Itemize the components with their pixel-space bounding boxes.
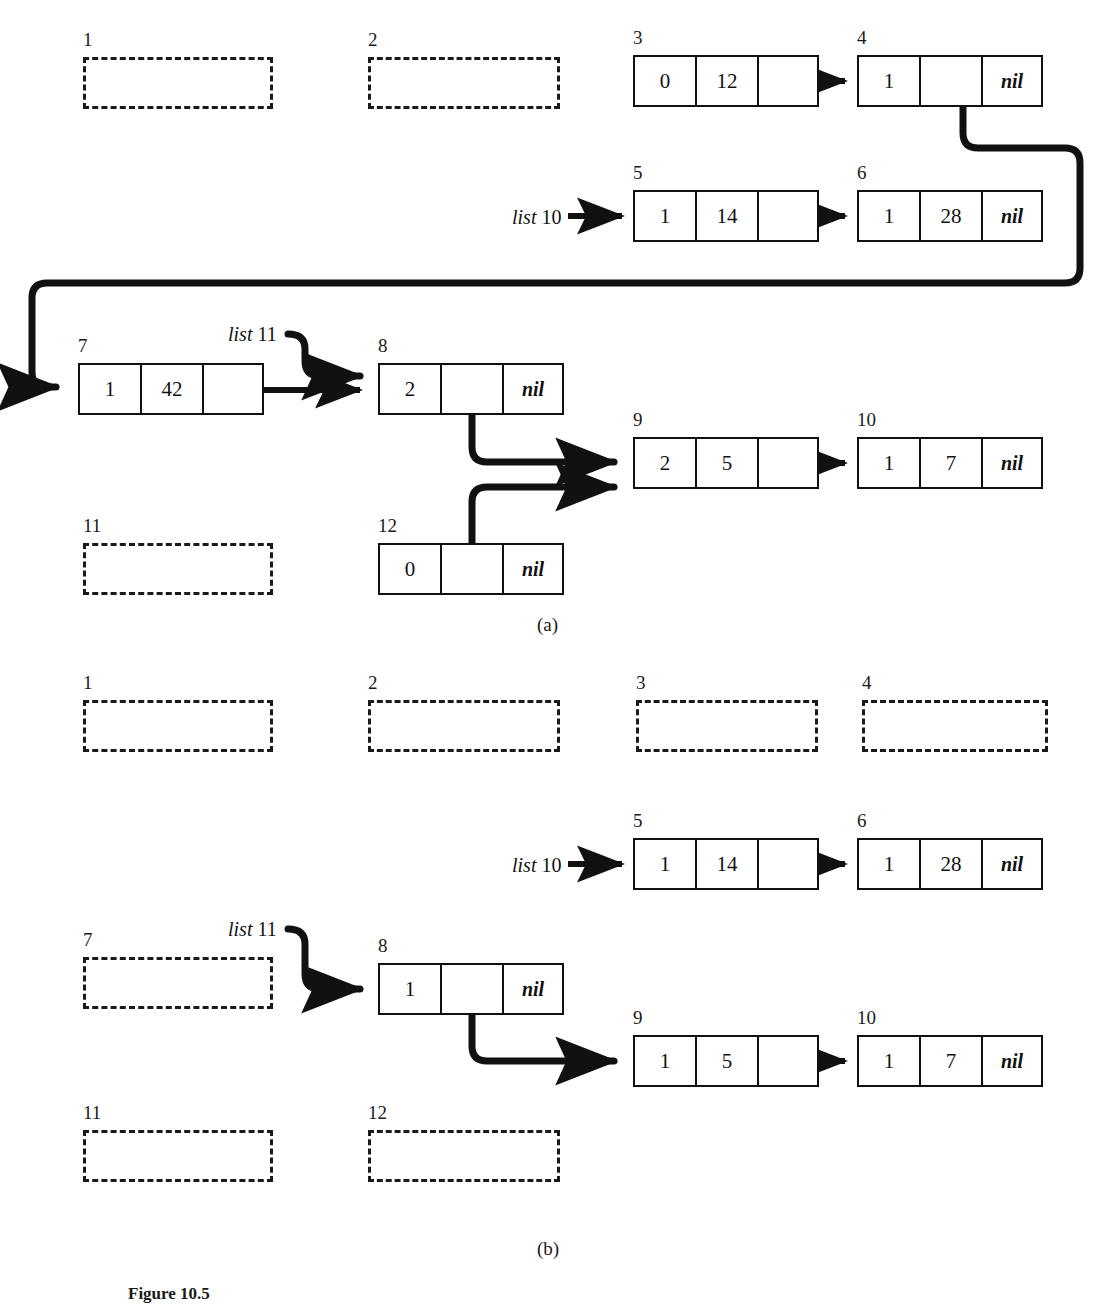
slot-index-b-3: 3 [636, 673, 646, 692]
slot-index-a-10: 10 [857, 410, 876, 429]
empty-slot-b-11 [83, 1130, 273, 1182]
empty-slot-b-7 [83, 957, 273, 1009]
node-a-9-next [759, 439, 817, 487]
list-number: 10 [541, 206, 561, 228]
slot-index-b-10: 10 [857, 1008, 876, 1027]
node-b-6: 1 28 nil [857, 838, 1043, 890]
slot-index-b-4: 4 [862, 673, 872, 692]
slot-index-a-4: 4 [857, 28, 867, 47]
slot-index-b-6: 6 [857, 811, 867, 830]
figure-caption: Figure 10.5 [128, 1284, 210, 1304]
subcaption-b: (b) [537, 1239, 559, 1258]
node-a-4-next [921, 57, 983, 105]
node-b-6-key: 1 [859, 840, 921, 888]
node-b-5-key: 1 [635, 840, 697, 888]
node-a-10: 1 7 nil [857, 437, 1043, 489]
slot-index-b-1: 1 [83, 673, 93, 692]
node-b-6-nil: nil [983, 840, 1041, 888]
node-b-10-value: 7 [921, 1037, 983, 1085]
empty-slot-b-12 [368, 1130, 560, 1182]
node-a-12: 0 nil [378, 543, 564, 595]
node-a-8-nil: nil [504, 365, 562, 413]
node-a-10-key: 1 [859, 439, 921, 487]
list-number: 11 [257, 323, 276, 345]
slot-index-b-2: 2 [368, 673, 378, 692]
empty-slot-b-2 [368, 700, 560, 752]
node-a-7-key: 1 [80, 365, 142, 413]
slot-index-a-5: 5 [633, 163, 643, 182]
slot-index-a-6: 6 [857, 163, 867, 182]
node-b-10: 1 7 nil [857, 1035, 1043, 1087]
node-a-6-value: 28 [921, 192, 983, 240]
slot-index-a-7: 7 [78, 336, 88, 355]
node-a-3: 0 12 [633, 55, 819, 107]
node-a-6-key: 1 [859, 192, 921, 240]
node-a-4-key: 1 [859, 57, 921, 105]
empty-slot-b-3 [636, 700, 818, 752]
node-a-5: 1 14 [633, 190, 819, 242]
node-a-7-next [204, 365, 262, 413]
slot-index-a-8: 8 [378, 336, 388, 355]
list-number: 10 [541, 854, 561, 876]
slot-index-a-9: 9 [633, 410, 643, 429]
node-b-8: 1 nil [378, 963, 564, 1015]
node-a-8-key: 2 [380, 365, 442, 413]
node-a-5-value: 14 [697, 192, 759, 240]
list-number: 11 [257, 918, 276, 940]
empty-slot-b-1 [83, 700, 273, 752]
slot-index-b-7: 7 [83, 930, 93, 949]
node-a-8: 2 nil [378, 363, 564, 415]
node-b-8-nil: nil [504, 965, 562, 1013]
node-b-5-next [759, 840, 817, 888]
node-a-9-key: 2 [635, 439, 697, 487]
node-a-7-value: 42 [142, 365, 204, 413]
node-a-8-next [442, 365, 504, 413]
node-a-7: 1 42 [78, 363, 264, 415]
node-b-10-nil: nil [983, 1037, 1041, 1085]
empty-slot-b-4 [862, 700, 1048, 752]
node-a-6-nil: nil [983, 192, 1041, 240]
slot-index-a-3: 3 [633, 28, 643, 47]
node-b-9: 1 5 [633, 1035, 819, 1087]
node-a-9-value: 5 [697, 439, 759, 487]
node-a-3-key: 0 [635, 57, 697, 105]
node-a-12-next [442, 545, 504, 593]
slot-index-b-9: 9 [633, 1008, 643, 1027]
node-b-6-value: 28 [921, 840, 983, 888]
slot-index-b-11: 11 [83, 1103, 101, 1122]
node-a-12-nil: nil [504, 545, 562, 593]
node-b-8-next [442, 965, 504, 1013]
list-label-a-11: list 11 [228, 324, 277, 344]
node-b-8-key: 1 [380, 965, 442, 1013]
node-a-3-next [759, 57, 817, 105]
slot-index-b-8: 8 [378, 936, 388, 955]
list-keyword: list [512, 854, 536, 876]
subcaption-a: (a) [537, 615, 558, 634]
list-keyword: list [512, 206, 536, 228]
node-b-5-value: 14 [697, 840, 759, 888]
list-keyword: list [228, 323, 252, 345]
empty-slot-a-1 [83, 57, 273, 109]
node-a-10-nil: nil [983, 439, 1041, 487]
slot-index-a-11: 11 [83, 516, 101, 535]
empty-slot-a-11 [83, 543, 273, 595]
node-a-4: 1 nil [857, 55, 1043, 107]
slot-index-a-2: 2 [368, 30, 378, 49]
node-a-12-key: 0 [380, 545, 442, 593]
node-b-10-key: 1 [859, 1037, 921, 1085]
pointer-b-list11-to-8 [288, 929, 360, 989]
slot-index-b-12: 12 [368, 1103, 387, 1122]
node-a-3-value: 12 [697, 57, 759, 105]
empty-slot-a-2 [368, 57, 560, 109]
slot-index-a-1: 1 [83, 30, 93, 49]
node-a-4-nil: nil [983, 57, 1041, 105]
slot-index-a-12: 12 [378, 516, 397, 535]
slot-index-b-5: 5 [633, 811, 643, 830]
list-label-b-11: list 11 [228, 919, 277, 939]
node-a-6: 1 28 nil [857, 190, 1043, 242]
node-b-9-key: 1 [635, 1037, 697, 1085]
list-label-a-10: list 10 [512, 207, 561, 227]
node-b-5: 1 14 [633, 838, 819, 890]
node-b-9-next [759, 1037, 817, 1085]
node-a-5-key: 1 [635, 192, 697, 240]
